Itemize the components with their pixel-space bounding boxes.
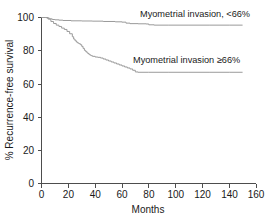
y-tick-label-60: 60 bbox=[23, 79, 35, 90]
y-tick-label-0: 0 bbox=[28, 178, 34, 189]
y-tick-label-20: 20 bbox=[23, 145, 35, 156]
x-tick-labels: 0 20 40 60 80 100 120 140 160 bbox=[39, 189, 265, 200]
survival-chart-svg: 100 80 60 40 20 0 % Recurrence-free surv… bbox=[0, 0, 274, 220]
y-axis-group: 100 80 60 40 20 0 % Recurrence-free surv… bbox=[4, 12, 42, 189]
x-tick-label-80: 80 bbox=[143, 189, 155, 200]
x-tick-label-160: 160 bbox=[248, 189, 265, 200]
series-label-low-invasion: Myometrial invasion, <66% bbox=[140, 9, 250, 19]
x-tick-label-140: 140 bbox=[221, 189, 238, 200]
x-tick-label-40: 40 bbox=[90, 189, 102, 200]
y-tick-label-40: 40 bbox=[23, 112, 35, 123]
x-axis-title: Months bbox=[132, 204, 165, 215]
x-tick-label-120: 120 bbox=[194, 189, 211, 200]
x-tick-marks bbox=[42, 184, 257, 189]
y-tick-label-80: 80 bbox=[23, 45, 35, 56]
y-tick-labels: 100 80 60 40 20 0 bbox=[17, 12, 34, 189]
series-label-high-invasion: Myometrial invasion ≥66% bbox=[133, 55, 240, 65]
x-tick-label-20: 20 bbox=[63, 189, 75, 200]
y-tick-label-100: 100 bbox=[17, 12, 34, 23]
x-tick-label-0: 0 bbox=[39, 189, 45, 200]
y-tick-marks bbox=[38, 18, 42, 184]
kaplan-meier-figure: 100 80 60 40 20 0 % Recurrence-free surv… bbox=[0, 0, 274, 220]
x-axis-group: 0 20 40 60 80 100 120 140 160 Months bbox=[39, 184, 265, 216]
y-axis-title: % Recurrence-free survival bbox=[4, 40, 15, 161]
x-tick-label-100: 100 bbox=[167, 189, 184, 200]
x-tick-label-60: 60 bbox=[117, 189, 129, 200]
